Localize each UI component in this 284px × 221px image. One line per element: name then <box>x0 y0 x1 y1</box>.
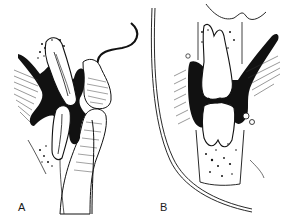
upper-molar <box>202 24 233 99</box>
lower-molar <box>203 102 235 147</box>
panel-b: B <box>142 0 284 221</box>
panel-a: A <box>0 0 142 221</box>
incisor-section-drawing <box>0 0 142 221</box>
panel-label-b: B <box>160 202 167 213</box>
buccal-hatching <box>174 70 190 124</box>
palate-outline <box>206 4 266 19</box>
anatomical-illustration: A <box>0 0 284 221</box>
panel-label-a: A <box>18 202 25 213</box>
molar-section-drawing <box>142 0 284 221</box>
